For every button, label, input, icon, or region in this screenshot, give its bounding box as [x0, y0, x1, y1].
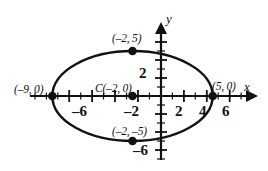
- label-covertex-bottom: (–2, –5): [112, 126, 147, 138]
- y-tick-label-neg6: –6: [133, 143, 148, 158]
- point-vertex-right: [208, 92, 217, 101]
- point-vertex-left: [48, 92, 57, 101]
- label-vertex-right: (5, 0): [212, 81, 236, 93]
- x-tick-label-neg6: –6: [72, 104, 87, 119]
- x-tick-label-neg2: –2: [124, 104, 139, 119]
- y-tick-label-pos2: 2: [139, 66, 147, 81]
- x-tick-label-pos4: 4: [199, 104, 207, 119]
- x-axis-label: x: [244, 80, 250, 93]
- label-vertex-left: (–9, 0): [14, 84, 43, 96]
- point-covertex-top: [128, 47, 137, 56]
- label-covertex-top: (–2, 5): [112, 33, 141, 45]
- x-tick-label-pos6: 6: [222, 104, 230, 119]
- y-axis-label: y: [166, 12, 172, 25]
- label-center-point: C(–2, 0): [95, 83, 132, 95]
- x-tick-label-pos2: 2: [175, 104, 183, 119]
- ellipse-graph-figure: (–2, 5) (–2, –5) (–9, 0) (5, 0) C(–2, 0)…: [0, 0, 268, 171]
